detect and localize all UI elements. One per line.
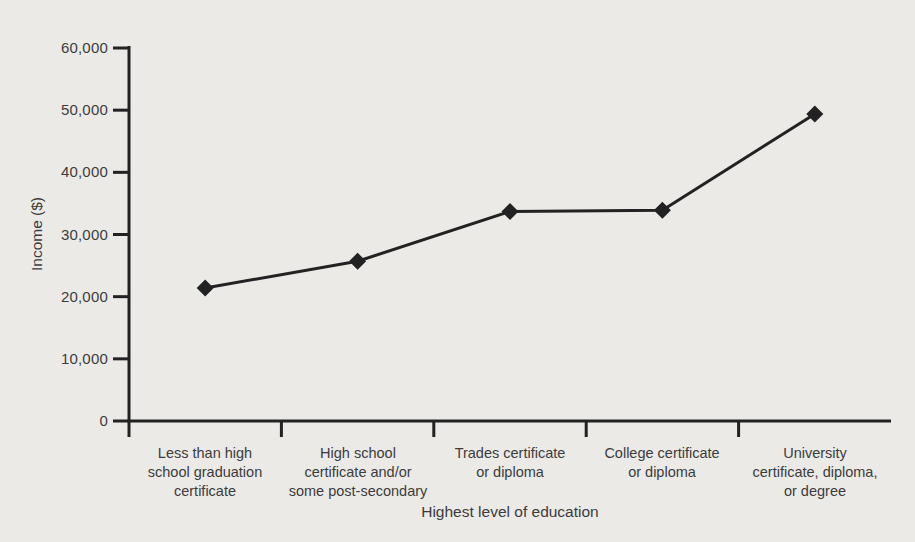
- ytick-label-10000: 10,000: [0, 351, 108, 367]
- x-axis-title: Highest level of education: [330, 503, 690, 521]
- ytick-label-60000: 60,000: [0, 40, 108, 56]
- data-point-marker-4: [806, 105, 823, 122]
- y-axis-title: Income ($): [27, 184, 47, 284]
- income-data-line: [205, 114, 815, 288]
- ytick-label-0: 0: [0, 413, 108, 429]
- ytick-label-20000: 20,000: [0, 289, 108, 305]
- data-point-marker-3: [654, 202, 671, 219]
- data-point-marker-0: [197, 279, 214, 296]
- ytick-label-40000: 40,000: [0, 164, 108, 180]
- income-vs-education-line-chart: 60,000 50,000 40,000 30,000 20,000 10,00…: [0, 0, 915, 542]
- category-label-university: University certificate, diploma, or degr…: [725, 444, 905, 501]
- data-point-marker-2: [502, 203, 519, 220]
- ytick-label-50000: 50,000: [0, 102, 108, 118]
- ytick-label-30000: 30,000: [0, 227, 108, 243]
- data-point-marker-1: [349, 253, 366, 270]
